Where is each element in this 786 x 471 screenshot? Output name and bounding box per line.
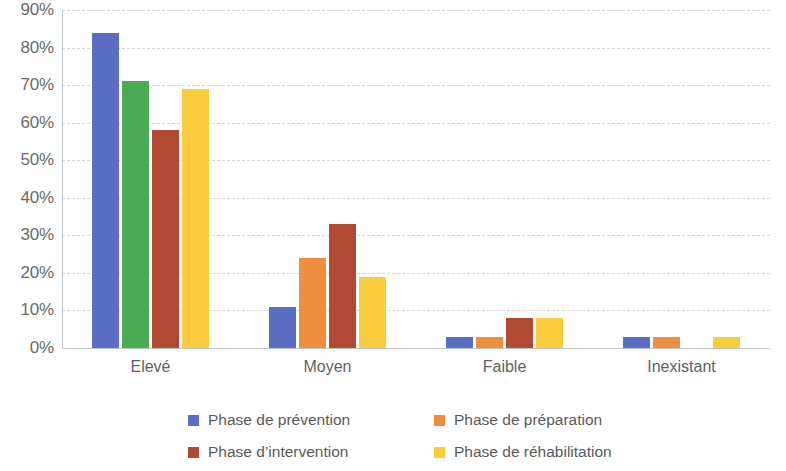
bar[interactable] (122, 81, 149, 348)
legend-item[interactable]: Phase de prévention (188, 404, 434, 436)
legend-label: Phase de préparation (454, 411, 602, 429)
legend-label: Phase d’intervention (208, 443, 348, 461)
bar-chart: 90%80%70%60%50%40%30%20%10%0% ElevéMoyen… (0, 0, 786, 471)
legend-label: Phase de prévention (208, 411, 350, 429)
chart-legend: Phase de préventionPhase de préparationP… (0, 404, 786, 468)
legend-swatch-icon (434, 415, 445, 426)
bar[interactable] (269, 307, 296, 348)
y-axis-tick-label: 80% (21, 39, 54, 56)
legend-swatch-icon (188, 447, 199, 458)
bar-group-bars (416, 10, 593, 348)
y-axis-tick-label: 90% (21, 1, 54, 18)
legend-swatch-icon (434, 447, 445, 458)
bar-groups (62, 10, 770, 348)
bar[interactable] (476, 337, 503, 348)
x-axis-category-label: Faible (416, 352, 593, 382)
y-axis-tick-label: 30% (21, 226, 54, 243)
bar[interactable] (623, 337, 650, 348)
y-axis-tick-label: 40% (21, 189, 54, 206)
legend-swatch-icon (188, 415, 199, 426)
y-axis-tick-label: 20% (21, 264, 54, 281)
bar-group (416, 10, 593, 348)
bar[interactable] (359, 277, 386, 348)
x-axis-category-labels: ElevéMoyenFaibleInexistant (62, 352, 770, 382)
bar[interactable] (506, 318, 533, 348)
y-axis-tick-label: 60% (21, 114, 54, 131)
bar[interactable] (182, 89, 209, 348)
y-axis-tick-label: 50% (21, 151, 54, 168)
legend-item[interactable]: Phase de préparation (434, 404, 680, 436)
legend-item[interactable]: Phase d’intervention (188, 436, 434, 468)
bar[interactable] (536, 318, 563, 348)
bar[interactable] (446, 337, 473, 348)
y-axis-tick-labels: 90%80%70%60%50%40%30%20%10%0% (0, 0, 58, 360)
x-axis-category-label: Elevé (62, 352, 239, 382)
bar[interactable] (653, 337, 680, 348)
legend-label: Phase de réhabilitation (454, 443, 612, 461)
plot-wrapper: 90%80%70%60%50%40%30%20%10%0% ElevéMoyen… (0, 0, 786, 400)
bar[interactable] (329, 224, 356, 348)
bar[interactable] (92, 33, 119, 348)
bar-group (593, 10, 770, 348)
x-axis-category-label: Moyen (239, 352, 416, 382)
bar[interactable] (299, 258, 326, 348)
bar[interactable] (152, 130, 179, 348)
bar-group (239, 10, 416, 348)
bar[interactable] (713, 337, 740, 348)
legend-item[interactable]: Phase de réhabilitation (434, 436, 680, 468)
bar-group-bars (62, 10, 239, 348)
bar-group (62, 10, 239, 348)
gridline (62, 348, 770, 349)
bar-group-bars (239, 10, 416, 348)
bar-group-bars (593, 10, 770, 348)
y-axis-tick-label: 0% (30, 339, 54, 356)
y-axis-tick-label: 10% (21, 301, 54, 318)
y-axis-tick-label: 70% (21, 76, 54, 93)
x-axis-category-label: Inexistant (593, 352, 770, 382)
